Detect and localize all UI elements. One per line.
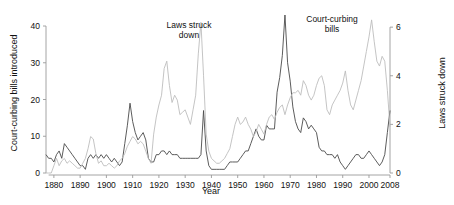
annotation-court-curbing-bills: Court-curbing bills — [290, 14, 374, 34]
y-tick-label-right: 0 — [396, 168, 401, 178]
y-tick-label-left: 20 — [31, 95, 41, 105]
y-tick-label-left: 40 — [31, 21, 41, 31]
chart-figure: 0102030400246188018901900191019201930194… — [0, 0, 454, 205]
y-tick-label-right: 6 — [396, 22, 401, 32]
y-tick-label-left: 30 — [31, 58, 41, 68]
y-tick-label-left: 10 — [31, 131, 41, 141]
y-tick-label-right: 2 — [396, 119, 401, 129]
annotation-laws-struck-down: Laws struck down — [147, 20, 231, 40]
series-line-2 — [46, 20, 390, 173]
y-axis-label-right: Laws struck down — [437, 13, 447, 173]
y-tick-label-right: 4 — [396, 71, 401, 81]
x-axis-label: Year — [0, 186, 454, 196]
x-axis-label-text: Year — [202, 186, 220, 196]
y-tick-label-left: 0 — [35, 168, 40, 178]
y-axis-label-left: Court-curbing bills introduced — [9, 13, 19, 173]
